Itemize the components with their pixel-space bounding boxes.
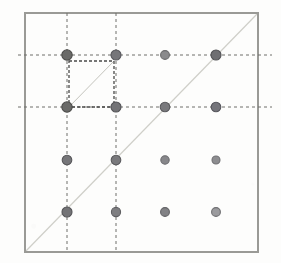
lattice-point-r4c4 — [212, 208, 221, 217]
lattice-point-r4c1 — [62, 207, 72, 217]
inner-cell-layer — [69, 61, 114, 107]
lattice-point-r2c1 — [62, 102, 72, 112]
figure-container — [0, 0, 281, 263]
grid-vertical-lines — [67, 13, 116, 252]
lattice-point-r3c1 — [62, 155, 72, 165]
main-diagonal — [25, 13, 258, 252]
lattice-point-r2c2 — [111, 102, 121, 112]
lattice-grid-figure — [0, 0, 281, 263]
lattice-point-r4c3 — [161, 208, 170, 217]
lattice-point-r1c2 — [111, 50, 121, 60]
lattice-point-r1c4 — [211, 50, 221, 60]
lattice-point-r2c4 — [211, 102, 221, 112]
lattice-point-r3c3 — [161, 156, 169, 164]
lattice-point-r2c3 — [160, 102, 170, 112]
lattice-point-r1c1 — [62, 50, 72, 60]
lattice-point-r3c4 — [212, 156, 220, 164]
diagonal-layer — [25, 13, 258, 252]
lattice-point-r1c3 — [161, 51, 170, 60]
grid-horizontal-lines — [18, 55, 272, 107]
lattice-point-r3c2 — [111, 155, 121, 165]
lattice-point-r4c2 — [111, 207, 120, 216]
inner-cell-diagonal — [69, 61, 114, 107]
